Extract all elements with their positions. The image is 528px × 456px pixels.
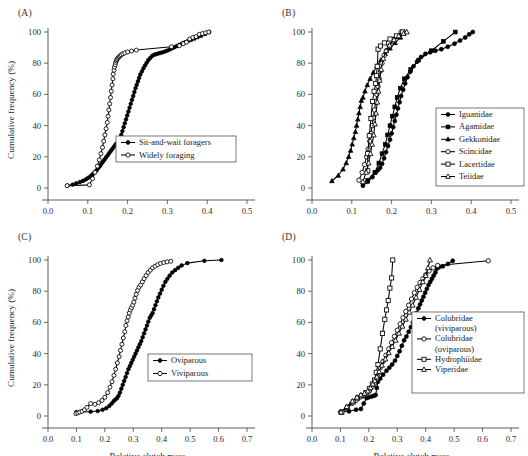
x-tick-label: 0.2 xyxy=(386,206,397,216)
figure-cumulative-frequency: (A) 0204060801000.00.10.20.30.40.5Cumula… xyxy=(0,0,528,456)
x-tick-label: 0.5 xyxy=(185,434,196,444)
y-tick-label: 20 xyxy=(32,380,41,390)
y-tick-label: 0 xyxy=(37,411,41,421)
panel-d: (D) 0204060801000.00.10.20.30.40.50.60.7… xyxy=(264,228,528,456)
plot-c: 0204060801000.00.10.20.30.40.50.60.7Cumu… xyxy=(0,228,264,456)
panel-c-label: (C) xyxy=(18,232,31,242)
x-tick-label: 0.1 xyxy=(82,206,93,216)
x-tick-label: 0.4 xyxy=(202,206,213,216)
series-widely-foraging xyxy=(65,30,211,188)
legend-label: Gekkonidae xyxy=(459,134,500,144)
series-sit-and-wait-foragers xyxy=(66,30,211,187)
y-tick-label: 60 xyxy=(296,89,305,99)
y-tick-label: 60 xyxy=(32,89,41,99)
legend-label: Colubridae xyxy=(435,333,473,343)
panel-c: (C) 0204060801000.00.10.20.30.40.50.60.7… xyxy=(0,228,264,456)
y-tick-label: 40 xyxy=(296,349,305,359)
y-tick-label: 40 xyxy=(32,349,41,359)
legend: Colubridae(viviparous)Colubridae(oviparo… xyxy=(412,312,524,393)
x-axis-title: Relative clutch mass xyxy=(373,451,449,456)
x-tick-label: 0.0 xyxy=(43,434,54,444)
x-tick-label: 0.6 xyxy=(213,434,224,444)
x-tick-label: 0.3 xyxy=(392,434,403,444)
legend-label: Sit-and-wait foragers xyxy=(139,137,211,147)
x-tick-label: 0.4 xyxy=(156,434,167,444)
legend-label: Agamidae xyxy=(459,121,494,131)
x-axis-title: Relative clutch mass xyxy=(109,451,185,456)
y-tick-label: 0 xyxy=(301,411,305,421)
legend-label: Viviparous xyxy=(171,368,208,378)
x-tick-label: 0.3 xyxy=(162,206,173,216)
legend-label: (viviparous) xyxy=(435,323,477,333)
axes: 0204060801000.00.10.20.30.40.5 xyxy=(28,27,255,216)
plot-b: 0204060801000.00.10.20.30.40.5IguanidaeA… xyxy=(264,0,528,228)
legend-label: Lacertidae xyxy=(459,159,495,169)
y-tick-label: 40 xyxy=(32,121,41,131)
panel-a: (A) 0204060801000.00.10.20.30.40.5Cumula… xyxy=(0,0,264,228)
x-tick-label: 0.2 xyxy=(122,206,133,216)
legend-label: Viperidae xyxy=(435,364,468,374)
y-tick-label: 100 xyxy=(292,27,305,37)
x-tick-label: 0.6 xyxy=(477,434,488,444)
y-tick-label: 20 xyxy=(32,152,41,162)
x-tick-label: 0.7 xyxy=(506,434,517,444)
x-tick-label: 0.1 xyxy=(335,434,346,444)
y-tick-label: 0 xyxy=(301,183,305,193)
x-tick-label: 0.5 xyxy=(506,206,517,216)
x-tick-label: 0.0 xyxy=(307,206,318,216)
series-oviparous xyxy=(75,258,224,414)
y-tick-label: 100 xyxy=(28,27,41,37)
legend-label: Oviparous xyxy=(171,355,206,365)
x-tick-label: 0.2 xyxy=(363,434,374,444)
y-tick-label: 0 xyxy=(37,183,41,193)
x-tick-label: 0.4 xyxy=(466,206,477,216)
x-tick-label: 0.1 xyxy=(71,434,82,444)
panel-b: (B) 0204060801000.00.10.20.30.40.5Iguani… xyxy=(264,0,528,228)
x-tick-label: 0.1 xyxy=(346,206,357,216)
x-tick-label: 0.3 xyxy=(128,434,139,444)
x-tick-label: 0.5 xyxy=(449,434,460,444)
x-tick-label: 0.0 xyxy=(307,434,318,444)
series-viviparous xyxy=(74,259,173,415)
y-tick-label: 20 xyxy=(296,380,305,390)
y-tick-label: 20 xyxy=(296,152,305,162)
y-tick-label: 40 xyxy=(296,121,305,131)
y-axis-title: Cumulative frequency (%) xyxy=(6,61,16,159)
y-tick-label: 80 xyxy=(296,58,305,68)
x-tick-label: 0.7 xyxy=(242,434,253,444)
legend-label: Colubridae xyxy=(435,313,473,323)
y-tick-label: 100 xyxy=(292,255,305,265)
plot-d: 0204060801000.00.10.20.30.40.50.60.7Rela… xyxy=(264,228,528,456)
y-tick-label: 60 xyxy=(296,317,305,327)
x-tick-label: 0.3 xyxy=(426,206,437,216)
legend-label: Widely foraging xyxy=(139,150,195,160)
legend: OviparousViviparous xyxy=(148,354,252,381)
legend: Sit-and-wait foragersWidely foraging xyxy=(116,136,236,162)
panel-b-label: (B) xyxy=(282,8,295,18)
legend-label: Hydrophiidae xyxy=(435,354,482,364)
y-tick-label: 80 xyxy=(32,58,41,68)
y-tick-label: 100 xyxy=(28,255,41,265)
legend: IguanidaeAgamidaeGekkonidaeScincidaeLace… xyxy=(436,108,524,186)
legend-label: (oviparous) xyxy=(435,344,474,354)
panel-a-label: (A) xyxy=(18,8,32,18)
x-tick-label: 0.2 xyxy=(99,434,110,444)
panel-d-label: (D) xyxy=(282,232,296,242)
y-axis-title: Cumulative frequency (%) xyxy=(6,289,16,387)
y-tick-label: 80 xyxy=(32,286,41,296)
legend-label: Iguanidae xyxy=(459,109,493,119)
legend-label: Teiidae xyxy=(459,171,484,181)
x-tick-label: 0.4 xyxy=(420,434,431,444)
y-tick-label: 80 xyxy=(296,286,305,296)
plot-a: 0204060801000.00.10.20.30.40.5Cumulative… xyxy=(0,0,264,228)
legend-label: Scincidae xyxy=(459,146,492,156)
x-tick-label: 0.5 xyxy=(242,206,253,216)
y-tick-label: 60 xyxy=(32,317,41,327)
x-tick-label: 0.0 xyxy=(43,206,54,216)
